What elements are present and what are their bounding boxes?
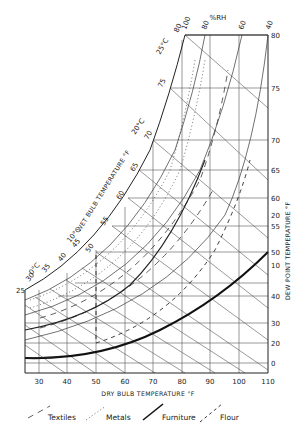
x-axis-label: DRY BULB TEMPERATURE °F [101,390,194,397]
svg-text:110: 110 [261,378,274,386]
svg-text:0: 0 [271,360,275,368]
rh-title: %RH [210,14,227,22]
svg-text:35: 35 [40,262,52,274]
svg-text:Textiles: Textiles [47,413,76,422]
legend-item-flour: Flour [200,404,240,422]
svg-text:30: 30 [271,320,280,328]
svg-text:50: 50 [271,249,280,257]
svg-text:25°C: 25°C [155,37,171,56]
svg-text:65: 65 [271,167,280,175]
svg-text:80: 80 [178,378,187,386]
svg-text:0°C: 0°C [27,261,41,276]
svg-text:75: 75 [157,77,168,88]
x-ticks: 30 40 50 60 70 80 90 100 110 [35,378,275,386]
svg-text:10: 10 [271,262,280,270]
zone-flour [96,160,250,343]
svg-text:90: 90 [206,378,215,386]
dew-point-ticks: 80 75 70 65 60 55 50 40 30 20 0 [271,32,280,368]
svg-text:20: 20 [271,212,280,220]
zone-furniture [25,252,268,358]
rh-curves [25,35,268,340]
svg-text:60: 60 [237,20,248,31]
svg-text:75: 75 [271,85,280,93]
legend: Textiles Metals Furniture Flour [28,404,240,422]
wet-bulb-ticks: 25 30 35 40 45 50 55 60 65 70 75 80 [16,22,184,295]
svg-text:70: 70 [149,378,158,386]
rh-ticks: 100 80 60 40 10 20 [180,15,280,270]
legend-item-metals: Metals [86,406,131,422]
grid [25,35,268,373]
svg-text:100: 100 [232,378,245,386]
frame [25,35,268,373]
celsius-ticks: 0°C 10°C 20°C 25°C [27,37,170,276]
svg-text:50: 50 [92,378,101,386]
svg-text:30: 30 [35,378,44,386]
legend-item-furniture: Furniture [143,404,196,422]
svg-text:70: 70 [271,137,280,145]
zone-left-extra [25,160,205,358]
svg-text:60: 60 [271,195,280,203]
svg-text:80: 80 [271,32,280,40]
svg-text:60: 60 [121,378,130,386]
zone-textiles [40,70,228,328]
legend-item-textiles: Textiles [28,406,76,422]
svg-text:100: 100 [180,15,192,30]
svg-text:25: 25 [16,287,25,295]
svg-text:20: 20 [271,340,280,348]
svg-text:Flour: Flour [220,413,240,422]
svg-text:60: 60 [115,189,126,201]
psychrometric-chart: 80 75 70 65 60 55 50 40 30 20 0 DEW POIN… [0,0,307,437]
svg-text:40: 40 [271,293,280,301]
dew-point-axis-label: DEW POINT TEMPERATURE °F [284,201,291,300]
svg-text:Furniture: Furniture [162,413,196,422]
svg-text:Metals: Metals [106,413,131,422]
svg-text:70: 70 [143,129,154,141]
svg-text:40: 40 [264,20,275,31]
svg-text:55: 55 [271,223,280,231]
svg-text:40: 40 [63,378,72,386]
